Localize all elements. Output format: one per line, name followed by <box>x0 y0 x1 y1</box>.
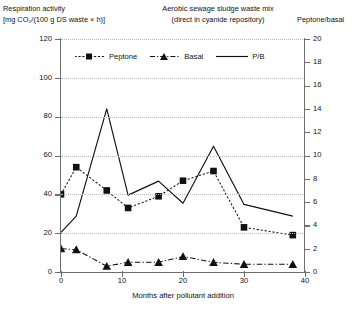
x-tick-label: 40 <box>290 276 320 285</box>
data-point-marker <box>210 168 217 175</box>
y-tick <box>55 233 61 234</box>
y2-tick-label: 8 <box>313 174 317 183</box>
gridline <box>61 233 305 234</box>
y2-tick-label: 16 <box>313 80 321 89</box>
y-tick <box>55 156 61 157</box>
x-tick-label: 0 <box>46 276 76 285</box>
gridline <box>61 117 305 118</box>
gridline <box>61 156 305 157</box>
legend-item-basal[interactable]: Basal <box>150 52 203 61</box>
y-tick <box>55 117 61 118</box>
y2-tick <box>304 179 310 180</box>
y2-tick-label: 6 <box>313 197 317 206</box>
y-tick-label: 0 <box>0 267 52 276</box>
y2-tick-label: 20 <box>313 34 321 43</box>
data-point-marker <box>73 164 80 171</box>
y-tick-label: 20 <box>0 228 52 237</box>
data-point-marker <box>124 258 133 266</box>
y2-axis-title: Peptone/basal <box>297 15 344 26</box>
y2-tick-label: 2 <box>313 244 317 253</box>
gridline <box>61 39 305 40</box>
x-tick-label: 10 <box>107 276 137 285</box>
y-tick-label: 100 <box>0 73 52 82</box>
data-point-marker <box>103 187 110 194</box>
y-axis-title-line1: Respiration activity <box>3 4 65 13</box>
pb-swatch-icon <box>216 52 248 61</box>
data-point-marker <box>179 252 188 260</box>
data-point-marker <box>180 177 187 184</box>
series-line-basal <box>61 249 293 266</box>
y-tick-label: 80 <box>0 111 52 120</box>
series-line-peptone <box>61 167 293 235</box>
chart-figure: Respiration activity [mg CO₂/(100 g DS w… <box>0 0 358 309</box>
peptone-swatch-icon <box>75 52 105 61</box>
chart-title-line2: (direct in cyanide repository) <box>128 15 308 26</box>
legend: Peptone Basal P/B <box>75 52 265 61</box>
x-axis-title: Months after pollutant addition <box>61 291 305 300</box>
legend-item-peptone[interactable]: Peptone <box>75 52 137 61</box>
data-point-marker <box>125 205 132 212</box>
y2-tick-label: 4 <box>313 220 317 229</box>
y-tick <box>55 39 61 40</box>
y2-tick-label: 18 <box>313 57 321 66</box>
y2-tick-label: 10 <box>313 150 321 159</box>
data-point-marker <box>289 260 298 268</box>
x-tick-label: 20 <box>168 276 198 285</box>
y-tick <box>55 78 61 79</box>
chart-title-line1: Aerobic sewage sludge waste mix <box>162 4 273 13</box>
y-axis-title: Respiration activity [mg CO₂/(100 g DS w… <box>3 4 105 25</box>
legend-label-pb: P/B <box>251 52 264 61</box>
y2-tick <box>304 39 310 40</box>
y2-tick-label: 0 <box>313 267 317 276</box>
basal-swatch-icon <box>150 52 180 61</box>
y2-tick <box>304 132 310 133</box>
plot-area <box>61 39 305 272</box>
y-axis-title-line2: [mg CO₂/(100 g DS waste × h)] <box>3 15 105 24</box>
y2-tick <box>304 249 310 250</box>
y2-tick <box>304 109 310 110</box>
y2-tick <box>304 202 310 203</box>
gridline <box>61 194 305 195</box>
y-tick-label: 60 <box>0 150 52 159</box>
y2-tick <box>304 86 310 87</box>
y2-tick <box>304 62 310 63</box>
legend-label-peptone: Peptone <box>108 52 137 61</box>
x-tick-label: 30 <box>229 276 259 285</box>
y-tick <box>55 194 61 195</box>
y-tick-label: 40 <box>0 189 52 198</box>
y2-tick <box>304 225 310 226</box>
legend-label-basal: Basal <box>183 52 203 61</box>
y-tick-label: 120 <box>0 34 52 43</box>
legend-item-pb[interactable]: P/B <box>216 52 264 61</box>
gridline <box>61 78 305 79</box>
y2-tick-label: 14 <box>313 104 321 113</box>
y2-tick-label: 12 <box>313 127 321 136</box>
series-line-p-b <box>61 109 293 232</box>
data-point-marker <box>241 224 248 231</box>
chart-title: Aerobic sewage sludge waste mix (direct … <box>128 4 308 25</box>
y2-tick <box>304 156 310 157</box>
